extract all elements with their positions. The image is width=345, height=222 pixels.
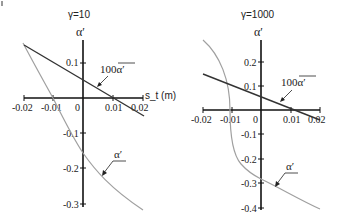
svg-text:0.1: 0.1 [66,57,79,68]
y-tick-labels: 0.2 0.1 -0.1 -0.2 -0.3 -0.4 [241,57,257,214]
x-tick-labels: -0.02 -0.01 0 0.01 0.02 [191,114,326,125]
svg-text:0: 0 [253,114,258,125]
line-annotation: 100α′ [100,63,125,75]
svg-text:-0.02: -0.02 [12,102,33,113]
svg-text:0.01: 0.01 [105,102,123,113]
arrowhead-icon [275,181,280,187]
arrowhead-icon [102,170,107,176]
svg-text:0.2: 0.2 [244,57,257,68]
svg-text:-0.3: -0.3 [241,178,257,189]
svg-text:-0.01: -0.01 [41,102,62,113]
x-tick-labels: -0.02 -0.01 0 0.01 0.02 [12,102,149,113]
svg-text:-0.2: -0.2 [241,154,257,165]
svg-text:-0.02: -0.02 [191,114,212,125]
panel-title: γ=10 [68,9,90,20]
panel-gamma-1000: γ=1000 α′ -0.02 -0.01 0 0.01 0.02 [191,9,326,214]
y-axis-label: α′ [254,25,263,39]
svg-text:0.01: 0.01 [283,114,301,125]
y-axis-label: α′ [76,25,85,39]
curve-annotation: α′ [114,148,122,160]
svg-text:0: 0 [75,102,80,113]
svg-text:-0.2: -0.2 [63,163,79,174]
svg-text:-0.3: -0.3 [63,199,79,210]
panel-gamma-10: γ=10 α′ -0.02 -0.01 0 0.01 0.02 s_t (m) [12,9,176,210]
svg-text:0.02: 0.02 [131,102,149,113]
x-axis-label: s_t (m) [145,90,176,101]
panel-title: γ=1000 [241,9,275,20]
svg-text:-0.1: -0.1 [241,129,257,140]
svg-text:-0.4: -0.4 [241,203,257,214]
line-annotation: 100α′ [281,76,306,88]
figure: γ=10 α′ -0.02 -0.01 0 0.01 0.02 s_t (m) [0,0,345,222]
curve-annotation: α′ [286,160,294,172]
